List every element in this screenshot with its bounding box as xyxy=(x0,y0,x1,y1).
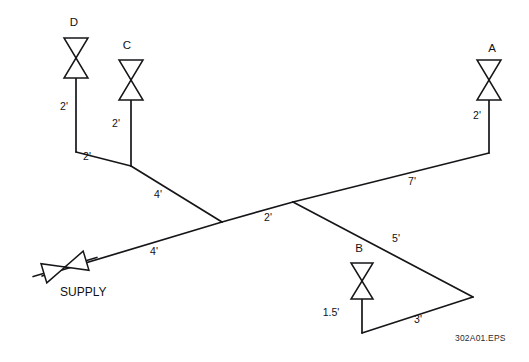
dimension-label-apex-to-b: 3' xyxy=(414,313,422,325)
valve-A-upper-triangle xyxy=(477,60,501,80)
dimension-label-c-to-main: 4' xyxy=(154,188,162,200)
valve-label-C: C xyxy=(123,39,131,51)
dimension-label-d-drop: 2' xyxy=(60,100,68,112)
file-reference-label: 302A01.EPS xyxy=(455,333,506,343)
dimension-label-supply-run: 4' xyxy=(150,245,158,257)
pipe-C-to-main-run xyxy=(131,166,222,222)
dimension-label-a-riser: 2' xyxy=(473,109,481,121)
valve-label-D: D xyxy=(70,16,78,28)
valve-B-symbol[interactable] xyxy=(351,263,373,299)
valve-label-A: A xyxy=(488,42,496,54)
valve-A-lower-triangle xyxy=(477,80,501,100)
valve-B-upper-triangle xyxy=(351,263,373,281)
valve-D-upper-triangle xyxy=(64,38,88,58)
dimension-label-main-to-a: 7' xyxy=(408,175,416,187)
valve-A-symbol[interactable] xyxy=(477,60,501,100)
pipe-network xyxy=(42,78,489,333)
valve-C-symbol[interactable] xyxy=(119,60,143,100)
dimension-label-b-riser: 1.5' xyxy=(323,306,340,318)
valve-label-B: B xyxy=(355,242,363,254)
pipe-branch-to-apex-run xyxy=(293,202,473,297)
piping-diagram: D C A B 2' 2' 2' 4' 4' 2' 7' 2' 5' 3' 1.… xyxy=(0,0,529,362)
valve-D-lower-triangle xyxy=(64,58,88,78)
dimension-label-c-drop: 2' xyxy=(112,117,120,129)
pipe-main-to-A-run xyxy=(293,153,489,202)
dimension-label-branch-to-b: 5' xyxy=(392,232,400,244)
valve-C-upper-triangle xyxy=(119,60,143,80)
supply-valve-right-triangle xyxy=(62,251,89,276)
pipe-main-cross-run xyxy=(222,202,293,222)
dimension-label-main-mid: 2' xyxy=(264,211,272,223)
valve-C-lower-triangle xyxy=(119,80,143,100)
valve-B-lower-triangle xyxy=(351,281,373,299)
valve-D-symbol[interactable] xyxy=(64,38,88,78)
supply-valve-symbol[interactable] xyxy=(30,248,101,287)
dimension-label-d-to-c-run: 2' xyxy=(83,150,91,162)
piping-schematic-svg: D C A B 2' 2' 2' 4' 4' 2' 7' 2' 5' 3' 1.… xyxy=(0,0,529,362)
supply-label: SUPPLY xyxy=(60,285,106,299)
